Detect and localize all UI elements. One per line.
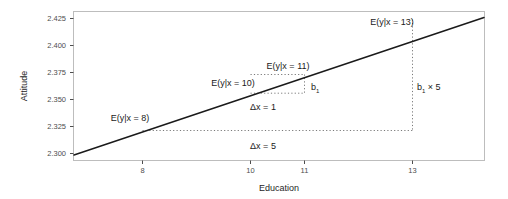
x-tick-label: 13 xyxy=(408,166,416,175)
x-tick-label: 8 xyxy=(140,166,144,175)
x-axis-title: Education xyxy=(259,183,299,193)
label-ey-x13: E(y|x = 13) xyxy=(370,17,414,27)
chart-figure: 2.300 2.325 2.350 2.375 2.400 2.425 8 10… xyxy=(0,0,508,199)
y-tick-label: 2.300 xyxy=(47,149,66,158)
y-tick-label: 2.425 xyxy=(47,14,66,23)
label-delta-x-1: Δx = 1 xyxy=(250,102,276,112)
label-b1-times-5: b1 × 5 xyxy=(417,82,441,94)
x-tick-label: 11 xyxy=(301,166,309,175)
y-tick-label: 2.400 xyxy=(47,41,66,50)
y-tick-label: 2.325 xyxy=(47,122,66,131)
y-tick-label: 2.350 xyxy=(47,95,66,104)
regression-plot: 2.300 2.325 2.350 2.375 2.400 2.425 8 10… xyxy=(0,0,508,199)
label-ey-x11: E(y|x = 11) xyxy=(267,61,310,71)
label-delta-x-5: Δx = 5 xyxy=(250,141,276,151)
x-tick-label: 10 xyxy=(246,166,254,175)
y-axis-title: Attitude xyxy=(19,71,29,102)
label-ey-x10: E(y|x = 10) xyxy=(211,78,255,88)
label-ey-x8: E(y|x = 8) xyxy=(111,113,150,123)
y-tick-label: 2.375 xyxy=(47,68,66,77)
label-b1-times-5-suffix: × 5 xyxy=(425,82,440,92)
